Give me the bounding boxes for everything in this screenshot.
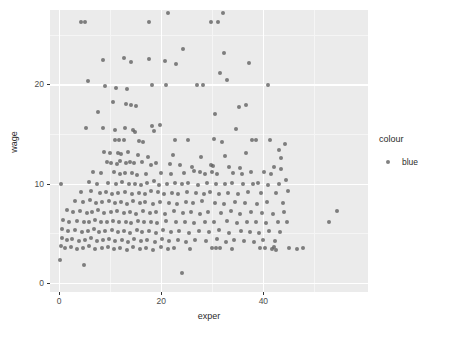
data-point bbox=[184, 200, 188, 204]
data-point bbox=[205, 181, 209, 185]
data-point bbox=[73, 228, 77, 232]
y-tick-label: 20 bbox=[0, 79, 44, 89]
data-point bbox=[114, 86, 118, 90]
data-point bbox=[159, 171, 163, 175]
data-point bbox=[81, 246, 85, 250]
legend-point-icon bbox=[386, 160, 390, 164]
data-point bbox=[284, 178, 288, 182]
data-point bbox=[88, 198, 92, 202]
data-point bbox=[117, 220, 121, 224]
y-tick-mark bbox=[47, 283, 50, 284]
data-point bbox=[89, 189, 93, 193]
data-point bbox=[218, 246, 222, 250]
data-point bbox=[203, 220, 207, 224]
data-point bbox=[261, 238, 265, 242]
data-point bbox=[167, 239, 171, 243]
data-point bbox=[132, 237, 136, 241]
data-point bbox=[162, 192, 166, 196]
data-point bbox=[106, 245, 110, 249]
data-point bbox=[95, 239, 99, 243]
data-point bbox=[266, 183, 270, 187]
data-point bbox=[211, 164, 215, 168]
data-point bbox=[225, 219, 229, 223]
data-point bbox=[104, 190, 108, 194]
data-point bbox=[82, 263, 86, 267]
data-point bbox=[243, 201, 247, 205]
data-point bbox=[136, 153, 140, 157]
data-point bbox=[215, 172, 219, 176]
data-point bbox=[96, 110, 100, 114]
data-point bbox=[154, 161, 158, 165]
data-point bbox=[148, 211, 152, 215]
data-point bbox=[208, 190, 212, 194]
data-point bbox=[110, 192, 114, 196]
data-point bbox=[149, 220, 153, 224]
data-point bbox=[204, 239, 208, 243]
data-point bbox=[172, 246, 176, 250]
legend-item-blue[interactable]: blue bbox=[379, 153, 447, 170]
data-point bbox=[154, 210, 158, 214]
data-point bbox=[276, 220, 280, 224]
x-tick-mark bbox=[263, 292, 264, 295]
data-point bbox=[198, 212, 202, 216]
data-point bbox=[82, 220, 86, 224]
data-point bbox=[113, 201, 117, 205]
data-point bbox=[118, 246, 122, 250]
data-point bbox=[96, 208, 100, 212]
data-point bbox=[176, 192, 180, 196]
data-point bbox=[109, 210, 113, 214]
data-point bbox=[127, 182, 131, 186]
data-point bbox=[170, 191, 174, 195]
data-point bbox=[167, 201, 171, 205]
data-point bbox=[150, 83, 154, 87]
data-point bbox=[254, 220, 258, 224]
data-point bbox=[75, 247, 79, 251]
data-point bbox=[271, 212, 275, 216]
data-point bbox=[133, 182, 137, 186]
data-point bbox=[274, 248, 278, 252]
data-point bbox=[141, 140, 145, 144]
data-point bbox=[233, 200, 237, 204]
data-point bbox=[66, 229, 70, 233]
data-point bbox=[264, 221, 268, 225]
data-point bbox=[77, 239, 81, 243]
data-point bbox=[147, 57, 151, 61]
data-point bbox=[130, 171, 134, 175]
data-point bbox=[217, 192, 221, 196]
data-points-layer bbox=[50, 10, 368, 292]
data-point bbox=[138, 201, 142, 205]
data-point bbox=[138, 247, 142, 251]
data-point bbox=[171, 153, 175, 157]
data-point bbox=[105, 220, 109, 224]
data-point bbox=[221, 11, 225, 15]
data-point bbox=[143, 200, 147, 204]
data-point bbox=[166, 11, 170, 15]
data-point bbox=[196, 183, 200, 187]
data-point bbox=[224, 240, 228, 244]
data-point bbox=[220, 140, 224, 144]
data-point bbox=[124, 161, 128, 165]
data-point bbox=[100, 200, 104, 204]
data-point bbox=[252, 240, 256, 244]
data-point bbox=[137, 139, 141, 143]
data-point bbox=[59, 182, 63, 186]
data-point bbox=[241, 182, 245, 186]
data-point bbox=[89, 236, 93, 240]
data-point bbox=[83, 238, 87, 242]
data-point bbox=[278, 230, 282, 234]
data-point bbox=[272, 165, 276, 169]
data-point bbox=[119, 152, 123, 156]
data-point bbox=[128, 231, 132, 235]
data-point bbox=[255, 202, 259, 206]
data-point bbox=[113, 239, 117, 243]
data-point bbox=[122, 138, 126, 142]
data-point bbox=[58, 258, 62, 262]
data-point bbox=[63, 246, 67, 250]
data-point bbox=[131, 199, 135, 203]
data-point bbox=[238, 212, 242, 216]
data-point bbox=[188, 247, 192, 251]
data-point bbox=[247, 61, 251, 65]
data-point bbox=[273, 239, 277, 243]
data-point bbox=[231, 171, 235, 175]
data-point bbox=[106, 181, 110, 185]
